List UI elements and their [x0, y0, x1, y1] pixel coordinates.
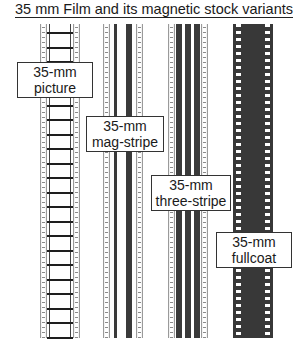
diagram-title-text: 35 mm Film and its magnetic stock varian… [15, 1, 293, 18]
frame-line [47, 105, 73, 107]
label-three-stripe: 35-mm three-stripe [151, 175, 231, 211]
frame-line [47, 279, 73, 281]
label-line-1: 35-mm [152, 177, 230, 193]
label-mag-stripe: 35-mm mag-stripe [86, 116, 164, 152]
perforations-right [265, 24, 270, 338]
perforation-edge-right [136, 24, 143, 338]
frame-line [47, 264, 73, 266]
frame-line [47, 177, 73, 179]
frame-line [47, 134, 73, 136]
label-line-2: mag-stripe [87, 134, 163, 150]
stripe-area [110, 24, 136, 338]
film-strip-mag-stripe [103, 24, 143, 338]
frame-line [47, 221, 73, 223]
label-line-1: 35-mm [217, 234, 291, 250]
label-fullcoat: 35-mm fullcoat [216, 232, 292, 268]
label-line-2: picture [18, 80, 92, 96]
frame-line [47, 308, 73, 310]
label-line-1: 35-mm [18, 64, 92, 80]
magnetic-stripe-main [126, 24, 132, 338]
frame-line [47, 119, 73, 121]
frame-line [47, 148, 73, 150]
film-strip-fullcoat [233, 24, 273, 338]
perforations-left [236, 24, 241, 338]
label-line-2: fullcoat [217, 250, 291, 266]
perforation-edge-left [103, 24, 110, 338]
frame-line [47, 293, 73, 295]
label-picture: 35-mm picture [17, 62, 93, 98]
label-line-1: 35-mm [87, 118, 163, 134]
frame-line [47, 47, 73, 49]
frame-line [47, 163, 73, 165]
frame-line [47, 337, 73, 339]
frame-line [47, 206, 73, 208]
magnetic-stripe-balance [114, 24, 117, 338]
label-line-2: three-stripe [152, 193, 230, 209]
frame-line [47, 235, 73, 237]
frame-line [47, 192, 73, 194]
frame-line [47, 250, 73, 252]
frame-line [47, 322, 73, 324]
frame-line [47, 32, 73, 34]
diagram-title: 35 mm Film and its magnetic stock varian… [0, 1, 308, 17]
